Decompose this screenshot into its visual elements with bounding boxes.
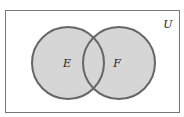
universe-label: U — [163, 18, 173, 31]
venn-diagram: E F U — [0, 0, 184, 117]
set-e-label: E — [62, 57, 71, 70]
set-f-label: F — [112, 57, 121, 70]
